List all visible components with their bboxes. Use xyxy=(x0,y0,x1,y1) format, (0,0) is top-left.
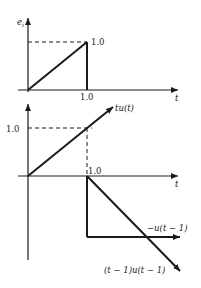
delayed-ramp-label: (t − 1)u(t − 1) xyxy=(104,265,165,275)
top-ramp-line xyxy=(28,42,87,90)
top-x-axis-label: t xyxy=(175,93,179,103)
step-label: −u(t − 1) xyxy=(147,223,188,233)
bottom-plot: 1.0 1.0 t tu(t) −u(t − 1) (t − 1)u(t − 1… xyxy=(6,103,188,275)
top-y-axis-label: ei xyxy=(17,17,24,28)
diagram-canvas: ei 1.0 1.0 t 1.0 1.0 t tu(t) −u(t − 1) (… xyxy=(0,0,201,288)
bottom-x-axis-label: t xyxy=(175,179,179,189)
bottom-time-label: 1.0 xyxy=(88,166,102,176)
top-time-label: 1.0 xyxy=(80,92,94,102)
top-plot: ei 1.0 1.0 t xyxy=(17,17,179,103)
bottom-level-label: 1.0 xyxy=(6,124,20,134)
top-level-label: 1.0 xyxy=(91,37,105,47)
ramp-tu-label: tu(t) xyxy=(115,103,134,113)
